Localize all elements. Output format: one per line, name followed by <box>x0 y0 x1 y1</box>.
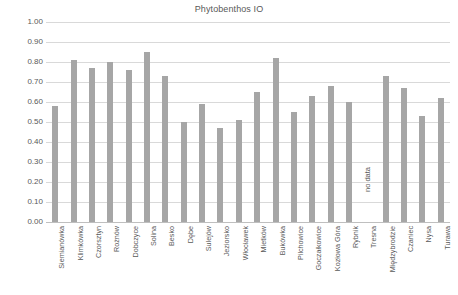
bar[interactable] <box>52 106 58 222</box>
bar[interactable] <box>273 58 279 222</box>
gridline <box>46 222 450 223</box>
y-axis-tick-label: 0.30 <box>1 158 43 166</box>
bar[interactable] <box>291 112 297 222</box>
bar-slot <box>83 22 101 222</box>
x-axis-tick: Tresna <box>358 224 376 295</box>
x-axis-tick: Jeziorsko <box>211 224 229 295</box>
x-axis-tick: Nysa <box>413 224 431 295</box>
bar[interactable] <box>217 128 223 222</box>
bar-slot <box>248 22 266 222</box>
x-axis-tick-label: Turawa <box>444 226 451 250</box>
y-axis-tick-label: 0.00 <box>1 218 43 226</box>
x-axis-tick: Mietków <box>248 224 266 295</box>
y-axis-tick-label: 0.10 <box>1 198 43 206</box>
x-axis-tick: Czaniec <box>395 224 413 295</box>
bar[interactable] <box>89 68 95 222</box>
y-axis-tick-label: 0.60 <box>1 98 43 106</box>
bar-slot <box>413 22 431 222</box>
bar-slot <box>193 22 211 222</box>
x-axis-tick: Dębe <box>175 224 193 295</box>
y-axis-tick-label: 0.80 <box>1 58 43 66</box>
bar-slot <box>377 22 395 222</box>
bar[interactable] <box>71 60 77 222</box>
bar[interactable] <box>328 86 334 222</box>
y-axis-tick-label: 0.20 <box>1 178 43 186</box>
bar[interactable] <box>181 122 187 222</box>
bar-slot <box>101 22 119 222</box>
x-axis-tick: Klimkówka <box>64 224 82 295</box>
bar[interactable] <box>346 102 352 222</box>
bar-slot <box>230 22 248 222</box>
y-axis-tick-label: 0.90 <box>1 38 43 46</box>
x-axis-tick: Czorsztyn <box>83 224 101 295</box>
bar-slot <box>46 22 64 222</box>
bar[interactable] <box>162 76 168 222</box>
bar-slot <box>175 22 193 222</box>
bars-layer: no data <box>46 22 450 222</box>
bar[interactable] <box>383 76 389 222</box>
x-axis-tick: Dobczyce <box>119 224 137 295</box>
bar[interactable] <box>126 70 132 222</box>
y-axis: 1.000.900.800.700.600.500.400.300.200.10… <box>0 22 43 222</box>
x-axis-tick: Besko <box>156 224 174 295</box>
x-axis-tick: Kozłowa Góra <box>321 224 339 295</box>
chart-title: Phytobenthos IO <box>0 4 458 14</box>
x-axis-tick: Bukówka <box>266 224 284 295</box>
bar-slot <box>395 22 413 222</box>
bar-slot <box>285 22 303 222</box>
x-axis-tick: Solina <box>138 224 156 295</box>
bar-slot <box>119 22 137 222</box>
bar-slot <box>266 22 284 222</box>
bar-slot <box>432 22 450 222</box>
bar[interactable] <box>309 96 315 222</box>
x-axis-tick: Pilchowice <box>285 224 303 295</box>
bar-slot <box>156 22 174 222</box>
y-axis-tick-label: 0.40 <box>1 138 43 146</box>
bar[interactable] <box>419 116 425 222</box>
bar[interactable] <box>438 98 444 222</box>
bar[interactable] <box>144 52 150 222</box>
bar-slot <box>211 22 229 222</box>
bar-slot <box>321 22 339 222</box>
x-axis-tick: Siemianówka <box>46 224 64 295</box>
y-axis-tick-label: 1.00 <box>1 18 43 26</box>
x-axis-tick: Rybnik <box>340 224 358 295</box>
bar-slot: no data <box>358 22 376 222</box>
bar[interactable] <box>199 104 205 222</box>
bar[interactable] <box>236 120 242 222</box>
bar[interactable] <box>254 92 260 222</box>
x-axis-tick: Międzybrodzie <box>377 224 395 295</box>
x-axis: SiemianówkaKlimkówkaCzorsztynRożnówDobcz… <box>46 224 450 295</box>
y-axis-tick-label: 0.70 <box>1 78 43 86</box>
bar-slot <box>138 22 156 222</box>
x-axis-tick: Sulejów <box>193 224 211 295</box>
x-axis-tick: Włocławek <box>230 224 248 295</box>
x-axis-tick: Turawa <box>432 224 450 295</box>
bar-slot <box>340 22 358 222</box>
y-axis-tick-label: 0.50 <box>1 118 43 126</box>
x-axis-tick: Rożnów <box>101 224 119 295</box>
bar-slot <box>303 22 321 222</box>
bar[interactable] <box>401 88 407 222</box>
bar-slot <box>64 22 82 222</box>
bar[interactable] <box>107 62 113 222</box>
no-data-annotation: no data <box>363 167 372 192</box>
x-axis-tick: Goczałkowice <box>303 224 321 295</box>
chart-container: Phytobenthos IO 1.000.900.800.700.600.50… <box>0 0 458 295</box>
